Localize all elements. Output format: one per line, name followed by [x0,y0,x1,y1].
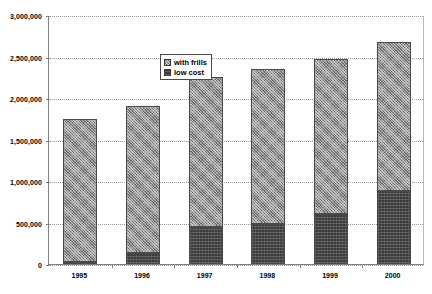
y-axis-tickmark [46,141,49,142]
gridline [49,99,423,100]
bar-segment-with-frills[interactable] [377,42,411,191]
y-axis-tick-label: 1,000,000 [0,179,42,186]
legend-item-label: with frills [174,58,207,67]
y-axis-tickmark [46,265,49,266]
gridline [49,141,423,142]
y-axis-tick-label: 2,000,000 [0,96,42,103]
x-axis-tickmark [237,264,238,268]
bar-segment-low-cost[interactable] [377,191,411,264]
x-axis-tickmark [112,264,113,268]
x-axis-tickmark [362,264,363,268]
legend-item[interactable]: with frills [164,57,207,67]
y-axis-tickmark [46,224,49,225]
y-axis-tickmark [46,58,49,59]
x-axis-tick-label: 1999 [300,272,360,279]
legend-swatch-icon [164,59,171,66]
y-axis-tickmark [46,99,49,100]
y-axis-tickmark [46,182,49,183]
bar-segment-with-frills[interactable] [126,106,160,253]
plot-area: with frillslow cost [48,16,424,265]
gridline [49,265,423,266]
bar-chart: 0500,0001,000,0001,500,0002,000,0002,500… [0,0,432,294]
y-axis-tick-label: 0 [0,262,42,269]
bar-segment-low-cost[interactable] [189,227,223,264]
bar-segment-with-frills[interactable] [251,69,285,224]
gridline [49,58,423,59]
bar-segment-with-frills[interactable] [314,59,348,214]
bar-segment-with-frills[interactable] [63,119,97,263]
gridline [49,224,423,225]
y-axis-tick-label: 3,000,000 [0,13,42,20]
x-axis-tickmark [300,264,301,268]
legend-item[interactable]: low cost [164,67,207,77]
x-axis-tick-label: 1997 [175,272,235,279]
y-axis-tick-label: 2,500,000 [0,54,42,61]
chart-legend: with frillslow cost [160,54,212,80]
x-axis-tick-label: 1995 [49,272,109,279]
bar-segment-low-cost[interactable] [314,214,348,264]
bar-segment-low-cost[interactable] [63,262,97,264]
bar-segment-low-cost[interactable] [251,224,285,264]
bar-segment-low-cost[interactable] [126,253,160,264]
x-axis-tick-label: 1996 [112,272,172,279]
y-axis-tick-label: 1,500,000 [0,137,42,144]
x-axis-tick-label: 1998 [237,272,297,279]
x-axis-tickmark [174,264,175,268]
gridline [49,16,423,17]
y-axis-tick-label: 500,000 [0,220,42,227]
y-axis-tickmark [46,16,49,17]
legend-item-label: low cost [174,68,204,77]
bar-segment-with-frills[interactable] [189,77,223,226]
legend-swatch-icon [164,69,171,76]
x-axis-tick-label: 2000 [363,272,423,279]
gridline [49,182,423,183]
